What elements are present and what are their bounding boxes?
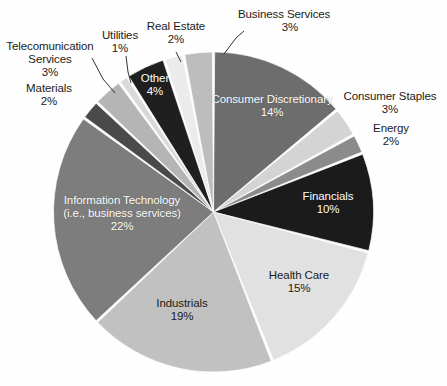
label-industrials: Industrials 19% xyxy=(144,297,220,323)
label-business-services-pct: 3% xyxy=(238,21,342,34)
label-information-technology-name-line1: Information Technology xyxy=(52,194,192,207)
label-utilities: Utilities 1% xyxy=(94,29,146,55)
label-consumer-discretionary: Consumer Discretionary 14% xyxy=(204,93,340,119)
label-telecom-services-name-line1: Telecomunication xyxy=(2,40,98,53)
label-consumer-staples-pct: 3% xyxy=(336,103,444,116)
leader-line-business-services xyxy=(224,31,244,54)
label-energy: Energy 2% xyxy=(364,122,418,148)
label-utilities-pct: 1% xyxy=(94,42,146,55)
label-telecom-services-name-line2: Services xyxy=(2,53,98,66)
label-health-care-pct: 15% xyxy=(258,282,340,295)
label-information-technology-pct: 22% xyxy=(52,220,192,233)
label-industrials-pct: 19% xyxy=(144,310,220,323)
label-materials-name: Materials xyxy=(13,82,85,95)
label-financials: Financials 10% xyxy=(290,190,366,216)
label-real-estate-pct: 2% xyxy=(141,33,211,46)
label-consumer-discretionary-pct: 14% xyxy=(204,106,340,119)
label-health-care: Health Care 15% xyxy=(258,269,340,295)
label-utilities-name: Utilities xyxy=(94,29,146,42)
label-other-pct: 4% xyxy=(131,85,179,98)
label-financials-name: Financials xyxy=(290,190,366,203)
label-telecom-services-pct: 3% xyxy=(2,66,98,79)
label-health-care-name: Health Care xyxy=(258,269,340,282)
label-consumer-discretionary-name: Consumer Discretionary xyxy=(204,93,340,106)
label-information-technology-name-line2: (i.e., business services) xyxy=(52,207,192,220)
label-other: Other 4% xyxy=(131,72,179,98)
label-telecom-services: Telecomunication Services 3% xyxy=(2,40,98,80)
label-consumer-staples-name: Consumer Staples xyxy=(336,90,444,103)
label-information-technology: Information Technology (i.e., business s… xyxy=(52,194,192,234)
label-energy-pct: 2% xyxy=(364,135,418,148)
label-consumer-staples: Consumer Staples 3% xyxy=(336,90,444,116)
label-real-estate-name: Real Estate xyxy=(141,20,211,33)
label-business-services: Business Services 3% xyxy=(238,8,358,34)
label-energy-name: Energy xyxy=(364,122,418,135)
label-industrials-name: Industrials xyxy=(144,297,220,310)
label-materials: Materials 2% xyxy=(13,82,85,108)
label-materials-pct: 2% xyxy=(13,95,85,108)
label-real-estate: Real Estate 2% xyxy=(141,20,211,46)
label-financials-pct: 10% xyxy=(290,203,366,216)
label-other-name: Other xyxy=(131,72,179,85)
pie-chart-figure: Business Services 3% Real Estate 2% Util… xyxy=(0,0,447,386)
label-business-services-name: Business Services xyxy=(238,8,358,21)
